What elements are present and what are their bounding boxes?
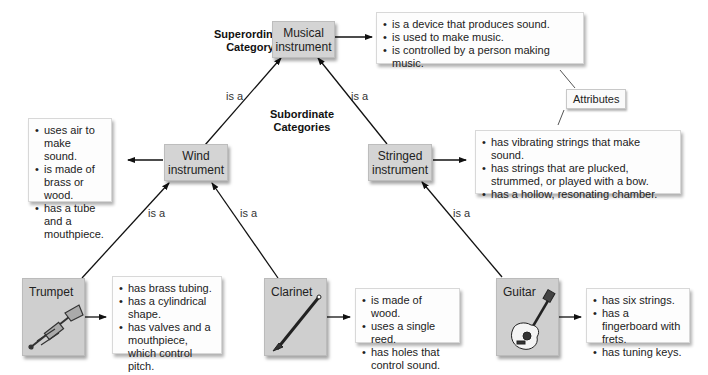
subordinate-label: Subordinate Categories	[262, 108, 342, 134]
attr-item: is a device that produces sound.	[383, 18, 577, 31]
attributes-stringed: has vibrating strings that make sound. h…	[475, 130, 681, 194]
node-stringed-line2: instrument	[369, 163, 431, 177]
node-guitar: Guitar	[496, 278, 559, 356]
node-wind-line2: instrument	[165, 163, 227, 177]
attr-item: has a tube and a mouthpiece.	[35, 202, 105, 241]
attr-item: is used to make music.	[383, 31, 577, 44]
node-musical-line1: Musical	[273, 26, 334, 40]
is-a-label-trumpet-wind: is a	[148, 207, 165, 219]
trumpet-label: Trumpet	[29, 285, 73, 299]
attr-item: has brass tubing.	[119, 282, 215, 295]
trumpet-icon	[25, 301, 85, 353]
attr-item: has a fingerboard with frets.	[593, 307, 683, 346]
attr-item: has six strings.	[593, 294, 683, 307]
node-stringed-line1: Stringed	[369, 149, 431, 163]
node-wind-line1: Wind	[165, 149, 227, 163]
attr-item: is made of wood.	[362, 294, 453, 320]
attributes-trumpet: has brass tubing. has a cylindrical shap…	[112, 276, 222, 354]
node-musical-line2: instrument	[273, 40, 334, 54]
attr-item: is controlled by a person making music.	[383, 44, 577, 70]
attr-item: has a cylindrical shape.	[119, 295, 215, 321]
is-a-label-clarinet-wind: is a	[240, 207, 257, 219]
is-a-label-guitar-stringed: is a	[453, 207, 470, 219]
attr-item: has vibrating strings that make sound.	[482, 136, 674, 162]
attr-item: has tuning keys.	[593, 346, 683, 359]
attributes-tag: Attributes	[566, 89, 626, 109]
attr-item: has a hollow, resonating chamber.	[482, 188, 674, 201]
attributes-guitar: has six strings. has a fingerboard with …	[586, 288, 690, 343]
attr-item: has holes that control sound.	[362, 346, 453, 372]
node-stringed-instrument: Stringed instrument	[368, 144, 432, 181]
guitar-icon	[499, 289, 559, 353]
node-trumpet: Trumpet	[22, 278, 85, 356]
is-a-label-wind-musical: is a	[226, 90, 243, 102]
node-wind-instrument: Wind instrument	[164, 144, 228, 181]
is-a-label-stringed-musical: is a	[351, 90, 368, 102]
node-musical-instrument: Musical instrument	[272, 21, 335, 58]
attr-item: has valves and a mouthpiece, which contr…	[119, 321, 215, 373]
attributes-musical: is a device that produces sound. is used…	[376, 12, 584, 64]
attr-item: is made of brass or wood.	[35, 163, 105, 202]
attributes-clarinet: is made of wood. uses a single reed. has…	[355, 288, 460, 343]
attr-item: uses a single reed.	[362, 320, 453, 346]
attr-item: has strings that are plucked, strummed, …	[482, 162, 674, 188]
clarinet-icon	[267, 293, 327, 353]
attr-item: uses air to make sound.	[35, 124, 105, 163]
node-clarinet: Clarinet	[264, 278, 327, 356]
attributes-wind: uses air to make sound. is made of brass…	[28, 118, 112, 202]
